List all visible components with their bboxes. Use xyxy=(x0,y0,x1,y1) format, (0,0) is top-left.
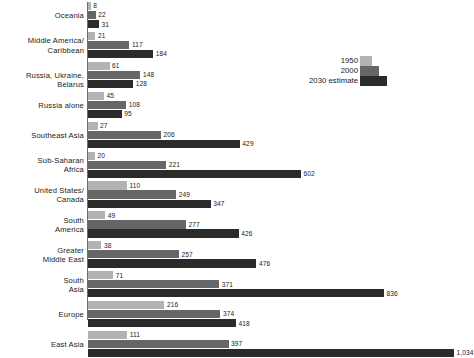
bar-1950 xyxy=(88,331,127,339)
bar-value-label: 397 xyxy=(231,339,242,348)
bar-2030-estimate xyxy=(88,80,133,88)
category-group: Europe216374418 xyxy=(88,301,454,328)
bar-row: 249 xyxy=(88,190,454,198)
bar-2030-estimate xyxy=(88,20,99,28)
bar-2000 xyxy=(88,11,96,19)
category-label: Europe xyxy=(0,310,84,319)
bar-2030-estimate xyxy=(88,319,236,327)
bar-value-label: 148 xyxy=(143,70,154,79)
bar-value-label: 602 xyxy=(304,169,315,178)
bar-2000 xyxy=(88,340,229,348)
bar-2000 xyxy=(88,41,129,49)
bar-2030-estimate xyxy=(88,349,454,357)
bar-value-label: 371 xyxy=(222,280,233,289)
bar-row: 206 xyxy=(88,131,454,139)
category-group: Russia alone4510895 xyxy=(88,92,454,119)
bar-value-label: 108 xyxy=(129,100,140,109)
bar-value-label: 21 xyxy=(98,31,106,40)
bar-2000 xyxy=(88,190,176,198)
bar-2030-estimate xyxy=(88,50,153,58)
bar-2000 xyxy=(88,250,179,258)
category-group: SouthAmerica49277426 xyxy=(88,211,454,238)
category-group: United States/Canada110249347 xyxy=(88,181,454,208)
bar-2000 xyxy=(88,220,186,228)
bar-2000 xyxy=(88,101,126,109)
bar-row: 347 xyxy=(88,200,454,208)
bar-row: 397 xyxy=(88,340,454,348)
bar-value-label: 71 xyxy=(116,271,124,280)
bar-row: 418 xyxy=(88,319,454,327)
bar-row: 257 xyxy=(88,250,454,258)
bar-value-label: 45 xyxy=(106,91,114,100)
category-label: East Asia xyxy=(0,340,84,349)
bar-row: 371 xyxy=(88,280,454,288)
bar-row: 45 xyxy=(88,92,454,100)
bar-value-label: 836 xyxy=(386,289,397,298)
category-label: Oceania xyxy=(0,11,84,20)
bar-row: 836 xyxy=(88,289,454,297)
bar-value-label: 374 xyxy=(223,309,234,318)
bar-value-label: 277 xyxy=(189,220,200,229)
plot-area: Oceania82231Middle America/Caribbean2111… xyxy=(88,2,454,323)
bar-1950 xyxy=(88,181,127,189)
legend-swatch xyxy=(360,76,387,86)
bar-row: 38 xyxy=(88,241,454,249)
bar-1950 xyxy=(88,122,98,130)
bar-value-label: 8 xyxy=(93,1,97,10)
bar-row: 22 xyxy=(88,11,454,19)
category-label: Middle America/Caribbean xyxy=(0,36,84,54)
category-label: SouthAmerica xyxy=(0,216,84,234)
bar-value-label: 1,034 xyxy=(457,348,474,357)
bar-row: 27 xyxy=(88,122,454,130)
bar-value-label: 49 xyxy=(108,211,116,220)
legend-label: 2030 estimate xyxy=(309,76,358,86)
bar-row: 31 xyxy=(88,20,454,28)
bar-1950 xyxy=(88,301,164,309)
category-label: Southeast Asia xyxy=(0,131,84,140)
bar-value-label: 117 xyxy=(132,40,143,49)
bar-2030-estimate xyxy=(88,110,122,118)
bar-value-label: 418 xyxy=(238,319,249,328)
bar-1950 xyxy=(88,152,95,160)
category-label: Sub-SaharanAfrica xyxy=(0,156,84,174)
bar-value-label: 206 xyxy=(163,130,174,139)
category-group: Sub-SaharanAfrica20221602 xyxy=(88,152,454,179)
bar-value-label: 22 xyxy=(98,10,106,19)
bar-value-label: 476 xyxy=(259,259,270,268)
category-label: GreaterMiddle East xyxy=(0,246,84,264)
category-label: Russia, Ukraine, Belarus xyxy=(0,71,84,89)
bar-row: 117 xyxy=(88,41,454,49)
bar-row: 71 xyxy=(88,271,454,279)
bar-value-label: 38 xyxy=(104,241,112,250)
bar-2000 xyxy=(88,71,140,79)
bar-row: 20 xyxy=(88,152,454,160)
bar-value-label: 95 xyxy=(124,109,132,118)
bar-value-label: 111 xyxy=(130,330,140,339)
bar-row: 216 xyxy=(88,301,454,309)
category-group: Southeast Asia27206429 xyxy=(88,122,454,149)
category-group: GreaterMiddle East38257476 xyxy=(88,241,454,268)
chart-legend: 195020002030 estimate xyxy=(292,56,402,87)
category-group: Oceania82231 xyxy=(88,2,454,29)
bar-row: 8 xyxy=(88,2,454,10)
bar-1950 xyxy=(88,241,101,249)
legend-label: 1950 xyxy=(341,56,358,66)
bar-value-label: 429 xyxy=(242,139,253,148)
legend-swatch xyxy=(360,66,379,76)
bar-row: 111 xyxy=(88,331,454,339)
legend-label: 2000 xyxy=(341,66,358,76)
bar-1950 xyxy=(88,2,91,10)
bar-2030-estimate xyxy=(88,140,240,148)
bar-value-label: 184 xyxy=(156,49,167,58)
bar-2030-estimate xyxy=(88,229,239,237)
category-group: East Asia1113971,034 xyxy=(88,331,454,358)
bar-1950 xyxy=(88,211,105,219)
bar-row: 95 xyxy=(88,110,454,118)
bar-value-label: 257 xyxy=(181,250,192,259)
category-label: United States/Canada xyxy=(0,186,84,204)
bar-value-label: 110 xyxy=(129,181,140,190)
legend-item: 1950 xyxy=(292,56,402,66)
bar-value-label: 221 xyxy=(169,160,180,169)
category-label: Russia alone xyxy=(0,101,84,110)
bar-2030-estimate xyxy=(88,200,211,208)
